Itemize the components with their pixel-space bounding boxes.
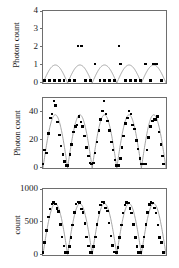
data-point [110, 141, 113, 144]
data-point [147, 136, 150, 139]
data-point [45, 152, 48, 155]
data-point [48, 79, 51, 82]
data-point [106, 210, 109, 213]
data-point [42, 251, 45, 254]
panel-count: count 05001000 [0, 178, 179, 268]
data-point [71, 224, 74, 227]
panel-2-ytick-mark [40, 111, 43, 112]
data-point [149, 79, 152, 82]
data-point [153, 207, 156, 210]
data-point [94, 152, 97, 155]
data-point [154, 118, 157, 121]
data-point [129, 79, 132, 82]
data-point [149, 125, 152, 128]
data-point [43, 241, 46, 244]
data-point [54, 203, 57, 206]
panel-2-fit-curve [43, 98, 167, 169]
data-point [144, 163, 147, 166]
data-point [119, 157, 122, 160]
data-point [84, 79, 87, 82]
panel-1-fit-curve [43, 11, 167, 84]
data-point [49, 208, 52, 211]
panel-1-ytick-mark [40, 46, 43, 47]
panel-1-ytick-mark [40, 82, 43, 83]
data-point [66, 251, 69, 254]
data-point [162, 163, 165, 166]
data-point [119, 63, 122, 66]
data-point [156, 115, 159, 118]
data-point [136, 245, 139, 248]
data-point [63, 245, 66, 248]
data-point [73, 211, 76, 214]
data-point [105, 113, 108, 116]
panel-3-plot-area [42, 188, 167, 256]
data-point [80, 121, 83, 124]
data-point [112, 149, 115, 152]
data-point [67, 164, 70, 167]
data-point [94, 236, 97, 239]
data-point [146, 149, 149, 152]
data-point [89, 79, 92, 82]
data-point [146, 211, 149, 214]
data-point [57, 210, 60, 213]
data-point [122, 135, 125, 138]
data-point [124, 122, 127, 125]
panel-1-plot-area [42, 10, 167, 84]
data-point [126, 117, 129, 120]
data-point [59, 223, 62, 226]
data-point [103, 201, 106, 204]
data-point [85, 236, 88, 239]
panel-2-ytick-label: 20 [0, 135, 38, 144]
data-point [61, 236, 64, 239]
data-point [58, 134, 61, 137]
panel-3-ytick-label: 1000 [0, 184, 38, 193]
panel-1-ytick-label: 3 [0, 24, 38, 33]
data-point [98, 129, 101, 132]
data-point [45, 229, 48, 232]
data-point [47, 216, 50, 219]
data-point [133, 128, 136, 131]
panel-2-ytick-mark [40, 167, 43, 168]
data-point [145, 223, 148, 226]
data-point [130, 212, 133, 215]
data-point [110, 235, 113, 238]
data-point [56, 207, 59, 210]
data-point [115, 251, 118, 254]
data-point [69, 153, 72, 156]
data-point [127, 202, 130, 205]
data-point [101, 110, 104, 113]
data-point [137, 148, 140, 151]
data-point [51, 113, 54, 116]
data-point [134, 236, 137, 239]
data-point [111, 244, 114, 247]
data-point [43, 79, 46, 82]
data-point [108, 79, 111, 82]
data-point [49, 117, 52, 120]
data-point [92, 245, 95, 248]
data-point [82, 211, 85, 214]
data-point [77, 45, 80, 48]
panel-3-ytick-label: 500 [0, 217, 38, 226]
panel-1-ytick-label: 2 [0, 42, 38, 51]
data-point [72, 131, 75, 134]
data-point [99, 118, 102, 121]
data-point [47, 132, 50, 135]
data-point [158, 131, 161, 134]
data-point [113, 79, 116, 82]
data-point [68, 245, 71, 248]
data-point [141, 245, 144, 248]
data-point [157, 224, 160, 227]
data-point [42, 163, 45, 166]
data-point [96, 141, 99, 144]
data-point [70, 143, 73, 146]
data-point [134, 79, 137, 82]
panel-photon-count-low: Photon count 01234 [0, 0, 179, 88]
panel-3-ytick-mark [40, 189, 43, 190]
data-point [117, 246, 120, 249]
data-point [143, 236, 146, 239]
data-point [85, 146, 88, 149]
data-point [84, 222, 87, 225]
data-point [78, 201, 81, 204]
data-point [120, 224, 123, 227]
panel-2-ytick-label: 0 [0, 163, 38, 172]
